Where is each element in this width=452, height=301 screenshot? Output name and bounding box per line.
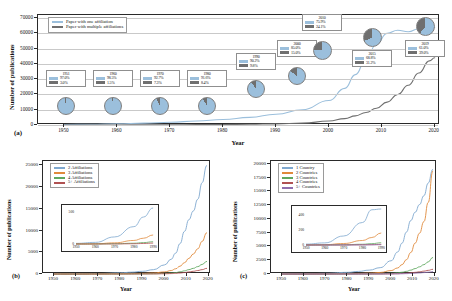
panel-c-xtick-label: 1970	[320, 276, 330, 281]
panel-b-xtick-label: 2010	[181, 276, 191, 281]
callout-swatch-icon	[239, 60, 248, 63]
panel-c-ytick-label: 12500	[226, 202, 266, 207]
panel-a-pie-chart	[198, 97, 216, 115]
panel-c-ytick-mark	[267, 163, 270, 164]
panel-c-ytick-mark	[267, 218, 270, 219]
panel-b-xtick-mark	[208, 273, 209, 276]
callout-swatch-icon	[280, 51, 289, 54]
panel-b-ytick-label: 5000	[0, 249, 38, 254]
callout-swatch-icon	[49, 81, 58, 84]
callout-percentage: 1.5%	[107, 81, 115, 85]
panel-b-inset-xtick-label: 1970	[111, 245, 118, 249]
callout-swatch-icon	[49, 77, 58, 80]
panel-a-callout: 201568.8%31.2%	[352, 50, 392, 67]
panel-b-ytick-mark	[39, 251, 42, 252]
panel-b-ytick-mark	[39, 208, 42, 209]
callout-row: 31.2%	[355, 61, 389, 65]
panel-b-inset: 050019501960197019801990	[61, 204, 159, 252]
callout-swatch-icon	[355, 61, 364, 64]
panel-a-ytick-mark	[34, 93, 37, 94]
callout-row: 9.8%	[239, 64, 273, 68]
panel-a-xtick-mark	[328, 124, 329, 127]
callout-swatch-icon	[190, 77, 199, 80]
panel-c-xtick-mark	[368, 273, 369, 276]
panel-a-ytick-mark	[34, 32, 37, 33]
panel-c-xtick-mark	[412, 273, 413, 276]
callout-percentage: 9.8%	[250, 64, 258, 68]
panel-a-xtick-mark	[222, 124, 223, 127]
panel-a-ytick-label: 30000	[0, 75, 33, 81]
panel-a-callout: 199090.2%9.8%	[236, 53, 276, 70]
panel-c-xtick-mark	[303, 273, 304, 276]
panel-a-pie-chart	[288, 67, 306, 85]
panel-c-xtick-mark	[325, 273, 326, 276]
panel-c-ytick-mark	[267, 232, 270, 233]
callout-swatch-icon	[96, 81, 105, 84]
legend-swatch-icon	[54, 177, 65, 179]
panel-a-xtick-label: 2000	[323, 127, 333, 133]
callout-row: 15.0%	[280, 51, 314, 55]
panel-a-callout: 201075.9%24.1%	[302, 14, 342, 31]
panel-c-xlabel: Year	[348, 286, 360, 292]
panel-b-inset-xtick-label: 1960	[92, 245, 99, 249]
panel-a-xtick-mark	[275, 124, 276, 127]
panel-c-xtick-mark	[434, 273, 435, 276]
panel-b-xlabel: Year	[120, 286, 132, 292]
panel-a-pie-chart	[57, 97, 75, 115]
callout-percentage: 31.2%	[366, 61, 375, 65]
panel-c-ytick-mark	[267, 190, 270, 191]
panel-a-ytick-label: 40000	[0, 60, 33, 66]
panel-c-legend-label: 5+ Countries	[296, 185, 320, 190]
callout-swatch-icon	[143, 77, 152, 80]
panel-c-inset: 020040019501960197019801990	[291, 205, 387, 253]
panel-c-ytick-mark	[267, 245, 270, 246]
legend-swatch-icon	[282, 172, 293, 174]
panel-a-callout: 196098.5%1.5%	[93, 70, 133, 87]
panel-a-ytick-mark	[34, 63, 37, 64]
panel-b-ytick-label: 0	[0, 271, 38, 276]
panel-b-legend: 2 Affiliations3 Affiliations4 Affiliatio…	[50, 163, 99, 188]
panel-a-ytick-mark	[34, 48, 37, 49]
callout-swatch-icon	[280, 47, 289, 50]
panel-c-ytick-mark	[267, 204, 270, 205]
callout-percentage: 39.0%	[419, 51, 428, 55]
panel-a-xtick-mark	[434, 124, 435, 127]
legend-swatch-icon	[52, 26, 63, 28]
callout-swatch-icon	[408, 51, 417, 54]
panel-c-xtick-label: 2000	[385, 276, 395, 281]
panel-a-ytick-mark	[34, 17, 37, 18]
panel-c: Number of publications (c) 0200400195019…	[226, 152, 452, 301]
panel-b: Number of publications (b) 0500195019601…	[0, 152, 226, 301]
panel-b-ytick-label: 20000	[0, 184, 38, 189]
panel-a-legend-item[interactable]: Paper with multiple affiliations	[52, 25, 123, 30]
panel-c-inset-xtick-label: 1960	[321, 246, 328, 250]
panel-c-xtick-label: 2010	[407, 276, 417, 281]
panel-b-ytick-mark	[39, 186, 42, 187]
panel-c-xtick-label: 1960	[298, 276, 308, 281]
legend-swatch-icon	[54, 167, 65, 169]
callout-swatch-icon	[355, 57, 364, 60]
panel-b-legend-item[interactable]: 5+ Affiliations	[54, 180, 95, 185]
panel-c-inset-xtick-label: 1970	[340, 246, 347, 250]
panel-a-ytick-label: 0	[0, 121, 33, 127]
callout-swatch-icon	[96, 77, 105, 80]
panel-b-xtick-mark	[53, 273, 54, 276]
panel-c-inset-xtick-label: 1990	[378, 246, 385, 250]
panel-a-ytick-label: 20000	[0, 90, 33, 96]
panel-a-xtick-label: 1990	[270, 127, 280, 133]
panel-b-ytick-label: 10000	[0, 227, 38, 232]
panel-b-ytick-mark	[39, 230, 42, 231]
callout-swatch-icon	[305, 21, 314, 24]
panel-c-legend-item[interactable]: 5+ Countries	[282, 185, 320, 190]
panel-c-inset-xtick-label: 1950	[302, 246, 309, 250]
panel-a-pie-chart	[151, 97, 169, 115]
panel-b-xtick-mark	[119, 273, 120, 276]
panel-a-pie-chart	[363, 28, 382, 47]
panel-b-ytick-label: 15000	[0, 205, 38, 210]
legend-swatch-icon	[282, 167, 293, 169]
callout-percentage: 7.3%	[154, 81, 162, 85]
panel-b-xtick-mark	[186, 273, 187, 276]
inset-series-line	[306, 209, 381, 244]
panel-c-ytick-mark	[267, 273, 270, 274]
panel-a-callout: 200085.0%15.0%	[277, 40, 317, 57]
